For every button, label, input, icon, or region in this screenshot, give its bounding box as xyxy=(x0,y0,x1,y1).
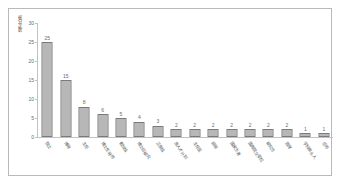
bar-value-label: 2 xyxy=(175,123,178,128)
x-label-slot: 正高级 xyxy=(149,139,167,184)
x-axis-labels: 院士博导主任博士生导师教授级博士后研究正高级高人才计划主任医硕导国家杰青国务院文… xyxy=(38,139,333,184)
x-label-slot: 博导 xyxy=(56,139,74,184)
bar-value-label: 2 xyxy=(212,123,215,128)
y-tick-label: 30 xyxy=(21,21,34,26)
bar-value-label: 3 xyxy=(156,119,159,124)
x-label-slot: 总师 xyxy=(315,139,333,184)
bar-value-label: 1 xyxy=(322,127,325,132)
x-axis-line xyxy=(37,137,333,138)
bar[interactable] xyxy=(42,42,53,137)
bar[interactable] xyxy=(134,122,145,137)
y-tick-label: 10 xyxy=(21,97,34,102)
x-label-slot: 主任医 xyxy=(186,139,204,184)
x-label-slot: 教授级 xyxy=(112,139,130,184)
bar[interactable] xyxy=(152,126,163,137)
bar-value-label: 2 xyxy=(267,123,270,128)
x-tick-label: 研究员 xyxy=(265,141,276,153)
bar[interactable] xyxy=(189,129,200,137)
y-tick-label: 5 xyxy=(21,116,34,121)
y-tick-label: 0 xyxy=(21,135,34,140)
bar[interactable] xyxy=(79,107,90,137)
x-tick-label: 总师 xyxy=(320,141,328,150)
x-label-slot: 院士 xyxy=(38,139,56,184)
x-label-slot: 研究员 xyxy=(259,139,277,184)
bar[interactable] xyxy=(60,80,71,137)
bar-slot: 2 xyxy=(204,23,222,137)
x-label-slot: 博士后研究 xyxy=(130,139,148,184)
y-tick-label: 15 xyxy=(21,78,34,83)
x-tick-label: 主任 xyxy=(80,141,88,150)
x-tick-label: 正高级 xyxy=(154,141,165,153)
bar-value-label: 25 xyxy=(44,36,50,41)
plot-area: 051015202530 251586543222222211 xyxy=(37,23,333,138)
bar[interactable] xyxy=(208,129,219,137)
x-tick-label: 国家杰青 xyxy=(228,141,241,157)
bar-value-label: 2 xyxy=(249,123,252,128)
x-label-slot: 学科带头人 xyxy=(296,139,314,184)
bar-slot: 3 xyxy=(149,23,167,137)
bar-slot: 15 xyxy=(56,23,74,137)
bar-value-label: 1 xyxy=(304,127,307,132)
bar-slot: 2 xyxy=(259,23,277,137)
bar-slot: 8 xyxy=(75,23,93,137)
bar-value-label: 2 xyxy=(193,123,196,128)
bar-value-label: 15 xyxy=(63,74,69,79)
y-tick-label: 20 xyxy=(21,59,34,64)
bar-slot: 2 xyxy=(167,23,185,137)
bar[interactable] xyxy=(281,129,292,137)
bar[interactable] xyxy=(226,129,237,137)
bar[interactable] xyxy=(171,129,182,137)
y-axis-title: 被分次数 xyxy=(11,15,21,31)
x-label-slot: 博士生导师 xyxy=(93,139,111,184)
x-tick-label: 院士 xyxy=(43,141,51,150)
y-tick-label: 25 xyxy=(21,40,34,45)
bar-value-label: 2 xyxy=(286,123,289,128)
bar-slot: 6 xyxy=(93,23,111,137)
bar-series: 251586543222222211 xyxy=(38,23,333,137)
x-tick-label: 硕导 xyxy=(209,141,217,150)
x-label-slot: 首席 xyxy=(278,139,296,184)
x-tick-label: 主任医 xyxy=(191,141,202,153)
bar[interactable] xyxy=(263,129,274,137)
bar[interactable] xyxy=(115,118,126,137)
bar-slot: 1 xyxy=(296,23,314,137)
bar-value-label: 2 xyxy=(230,123,233,128)
bar-slot: 2 xyxy=(186,23,204,137)
bar[interactable] xyxy=(318,133,329,137)
x-label-slot: 国家杰青 xyxy=(222,139,240,184)
x-label-slot: 高人才计划 xyxy=(167,139,185,184)
x-label-slot: 硕导 xyxy=(204,139,222,184)
bar-slot: 25 xyxy=(38,23,56,137)
bar-value-label: 8 xyxy=(83,100,86,105)
bar-value-label: 5 xyxy=(120,112,123,117)
x-tick-label: 博导 xyxy=(62,141,70,150)
bar-value-label: 6 xyxy=(101,108,104,113)
bar-slot: 4 xyxy=(130,23,148,137)
bar-value-label: 4 xyxy=(138,115,141,120)
bar-slot: 1 xyxy=(315,23,333,137)
bar[interactable] xyxy=(245,129,256,137)
bar-slot: 2 xyxy=(278,23,296,137)
bar[interactable] xyxy=(97,114,108,137)
x-label-slot: 国务院文职位 xyxy=(241,139,259,184)
x-tick-label: 教授级 xyxy=(117,141,128,153)
bar[interactable] xyxy=(300,133,311,137)
x-tick-label: 首席 xyxy=(283,141,291,150)
bar-slot: 5 xyxy=(112,23,130,137)
bar-slot: 2 xyxy=(222,23,240,137)
chart-frame: 被分次数 051015202530 251586543222222211 院士博… xyxy=(8,8,332,176)
x-label-slot: 主任 xyxy=(75,139,93,184)
y-tick-mark xyxy=(35,137,38,138)
bar-slot: 2 xyxy=(241,23,259,137)
